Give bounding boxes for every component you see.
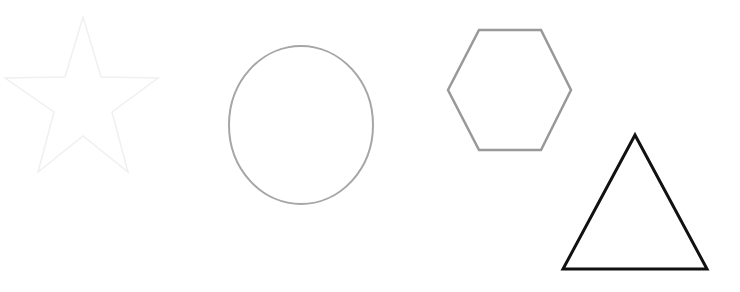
shapes-canvas xyxy=(0,0,740,292)
circle-shape xyxy=(229,46,373,204)
triangle-shape xyxy=(563,135,707,269)
star-shape xyxy=(5,17,158,172)
hexagon-shape xyxy=(448,30,571,150)
